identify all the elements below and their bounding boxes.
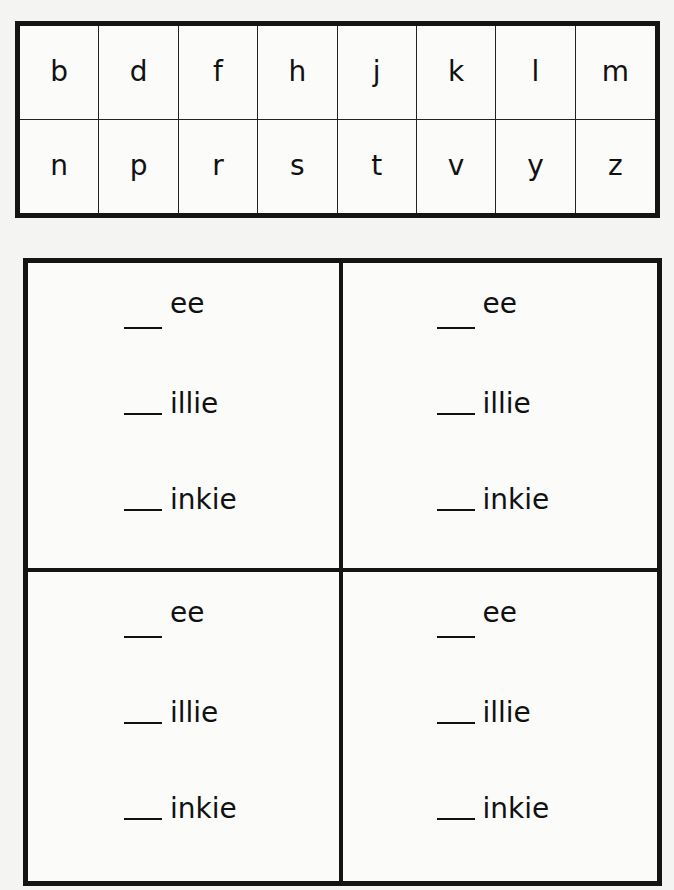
answer-blank[interactable]: [437, 722, 475, 724]
word-suffix: inkie: [170, 483, 237, 516]
letter-cell-v: v: [417, 120, 496, 214]
word-completion-grid: ee illie inkie ee illie inki: [23, 258, 662, 886]
word-suffix: illie: [170, 387, 218, 420]
word-suffix: illie: [483, 696, 531, 729]
word-item: inkie: [124, 483, 237, 579]
word-list: ee illie inkie: [437, 301, 550, 579]
word-list: ee illie inkie: [124, 610, 237, 888]
word-item: ee: [124, 610, 237, 696]
word-box-bottom-right: ee illie inkie: [343, 572, 658, 881]
letter-cell-t: t: [338, 120, 417, 214]
answer-blank[interactable]: [124, 327, 162, 329]
word-item: ee: [437, 610, 550, 696]
word-item: illie: [124, 696, 237, 792]
answer-blank[interactable]: [437, 636, 475, 638]
letter-cell-d: d: [99, 26, 178, 120]
word-item: inkie: [437, 792, 550, 888]
letter-cell-y: y: [496, 120, 575, 214]
letter-cell-z: z: [576, 120, 655, 214]
word-item: ee: [437, 301, 550, 387]
answer-blank[interactable]: [124, 818, 162, 820]
word-suffix: ee: [170, 596, 204, 629]
word-suffix: inkie: [483, 483, 550, 516]
letter-cell-s: s: [258, 120, 337, 214]
letter-bank-table: b d f h j k l m n p r s t v y z: [15, 21, 660, 218]
word-suffix: inkie: [483, 792, 550, 825]
word-box-top-left: ee illie inkie: [28, 263, 343, 572]
answer-blank[interactable]: [124, 509, 162, 511]
word-suffix: ee: [483, 287, 517, 320]
word-box-bottom-left: ee illie inkie: [28, 572, 343, 881]
letter-cell-r: r: [179, 120, 258, 214]
letter-cell-l: l: [496, 26, 575, 120]
letter-cell-n: n: [20, 120, 99, 214]
answer-blank[interactable]: [124, 636, 162, 638]
word-item: ee: [124, 301, 237, 387]
answer-blank[interactable]: [437, 509, 475, 511]
answer-blank[interactable]: [437, 413, 475, 415]
word-suffix: illie: [483, 387, 531, 420]
answer-blank[interactable]: [124, 413, 162, 415]
letter-cell-f: f: [179, 26, 258, 120]
word-suffix: illie: [170, 696, 218, 729]
word-item: illie: [124, 387, 237, 483]
answer-blank[interactable]: [124, 722, 162, 724]
letter-cell-h: h: [258, 26, 337, 120]
word-box-top-right: ee illie inkie: [343, 263, 658, 572]
word-item: inkie: [124, 792, 237, 888]
word-suffix: ee: [483, 596, 517, 629]
word-list: ee illie inkie: [124, 301, 237, 579]
letter-cell-k: k: [417, 26, 496, 120]
letter-cell-b: b: [20, 26, 99, 120]
word-suffix: inkie: [170, 792, 237, 825]
letter-cell-p: p: [99, 120, 178, 214]
letter-cell-j: j: [338, 26, 417, 120]
answer-blank[interactable]: [437, 327, 475, 329]
word-item: inkie: [437, 483, 550, 579]
word-list: ee illie inkie: [437, 610, 550, 888]
word-item: illie: [437, 387, 550, 483]
word-item: illie: [437, 696, 550, 792]
letter-cell-m: m: [576, 26, 655, 120]
answer-blank[interactable]: [437, 818, 475, 820]
word-suffix: ee: [170, 287, 204, 320]
